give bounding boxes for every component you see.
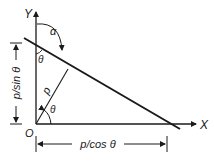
theta-origin-label: θ (50, 104, 56, 115)
alpha-label: α (50, 25, 57, 37)
p-label: p (39, 85, 53, 97)
vertical-dim-label: p/sin θ (10, 67, 22, 100)
horizontal-dim-label: p/cos θ (79, 138, 115, 150)
theta-top-label: θ (38, 54, 44, 65)
y-axis-label: Y (24, 7, 33, 21)
x-axis-label: X (199, 118, 209, 132)
main-line (24, 38, 180, 129)
normal-form-line-diagram: Y X O α θ θ p p/sin θ p/cos θ (0, 0, 214, 165)
perpendicular-p (36, 69, 68, 124)
origin-label: O (25, 127, 34, 139)
